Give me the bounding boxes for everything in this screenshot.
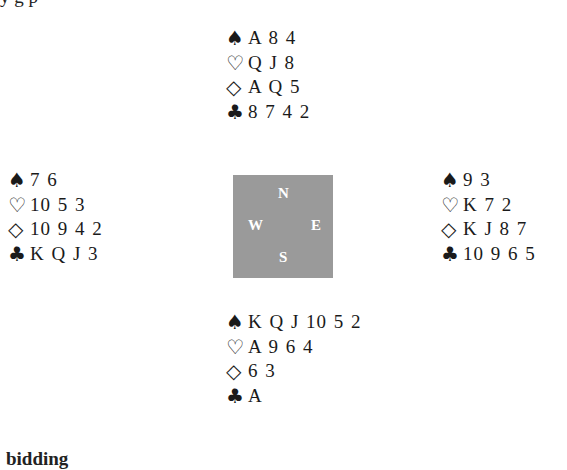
top-text-fragment: y g p (0, 0, 38, 8)
west-spades-row: ♠7 6 (8, 168, 103, 193)
west-diamonds-row: ◇10 9 4 2 (8, 217, 103, 242)
east-diamonds-row: ◇K J 8 7 (441, 217, 536, 242)
club-icon: ♣ (226, 384, 248, 409)
east-spades-row: ♠9 3 (441, 168, 536, 193)
south-diamonds: 6 3 (248, 359, 276, 384)
west-clubs-row: ♣K Q J 3 (8, 242, 103, 267)
heart-icon: ♡ (226, 335, 248, 360)
west-hearts: 10 5 3 (30, 193, 86, 218)
south-hearts: A 9 6 4 (248, 335, 313, 360)
heart-icon: ♡ (8, 193, 30, 218)
north-clubs-row: ♣8 7 4 2 (226, 100, 310, 125)
compass-box: N W E S (233, 175, 333, 278)
north-diamonds: A Q 5 (248, 75, 300, 100)
east-spades: 9 3 (463, 168, 491, 193)
diamond-icon: ◇ (226, 75, 248, 100)
compass-east-label: E (311, 217, 321, 234)
south-diamonds-row: ◇6 3 (226, 359, 362, 384)
diamond-icon: ◇ (441, 217, 463, 242)
diamond-icon: ◇ (8, 217, 30, 242)
diamond-icon: ◇ (226, 359, 248, 384)
north-diamonds-row: ◇A Q 5 (226, 75, 310, 100)
cut-off-text-bottom: bidding (6, 448, 68, 470)
south-clubs-row: ♣A (226, 384, 362, 409)
south-hearts-row: ♡A 9 6 4 (226, 335, 362, 360)
north-spades: A 8 4 (248, 26, 296, 51)
spade-icon: ♠ (226, 26, 248, 51)
compass-north-label: N (278, 185, 289, 202)
north-clubs: 8 7 4 2 (248, 100, 310, 125)
south-spades-row: ♠K Q J 10 5 2 (226, 310, 362, 335)
spade-icon: ♠ (8, 168, 30, 193)
west-hearts-row: ♡10 5 3 (8, 193, 103, 218)
east-hand: ♠9 3 ♡K 7 2 ◇K J 8 7 ♣10 9 6 5 (441, 168, 536, 266)
north-hearts-row: ♡Q J 8 (226, 51, 310, 76)
south-clubs: A (248, 384, 263, 409)
east-hearts: K 7 2 (463, 193, 512, 218)
spade-icon: ♠ (226, 310, 248, 335)
east-clubs: 10 9 6 5 (463, 242, 536, 267)
south-hand: ♠K Q J 10 5 2 ♡A 9 6 4 ◇6 3 ♣A (226, 310, 362, 408)
compass-west-label: W (248, 217, 263, 234)
club-icon: ♣ (8, 242, 30, 267)
west-hand: ♠7 6 ♡10 5 3 ◇10 9 4 2 ♣K Q J 3 (8, 168, 103, 266)
north-hearts: Q J 8 (248, 51, 295, 76)
north-hand: ♠A 8 4 ♡Q J 8 ◇A Q 5 ♣8 7 4 2 (226, 26, 310, 124)
heart-icon: ♡ (441, 193, 463, 218)
east-hearts-row: ♡K 7 2 (441, 193, 536, 218)
compass-south-label: S (279, 249, 287, 266)
club-icon: ♣ (441, 242, 463, 267)
heart-icon: ♡ (226, 51, 248, 76)
west-spades: 7 6 (30, 168, 58, 193)
east-diamonds: K J 8 7 (463, 217, 527, 242)
south-spades: K Q J 10 5 2 (248, 310, 362, 335)
west-clubs: K Q J 3 (30, 242, 99, 267)
east-clubs-row: ♣10 9 6 5 (441, 242, 536, 267)
north-spades-row: ♠A 8 4 (226, 26, 310, 51)
club-icon: ♣ (226, 100, 248, 125)
spade-icon: ♠ (441, 168, 463, 193)
west-diamonds: 10 9 4 2 (30, 217, 103, 242)
